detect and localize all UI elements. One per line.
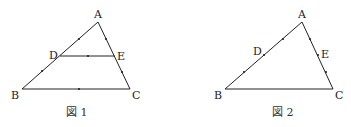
caption-fig2: 図 2 bbox=[272, 106, 294, 119]
label-b-fig1: B bbox=[11, 89, 19, 102]
label-e-fig2: E bbox=[321, 48, 329, 61]
label-c-fig2: C bbox=[335, 89, 343, 102]
label-a-fig2: A bbox=[297, 8, 307, 21]
label-d-fig1: D bbox=[49, 49, 58, 62]
label-a-fig1: A bbox=[93, 8, 103, 21]
diagram-canvas: A B C D E 図 1 A B C D E 図 2 bbox=[0, 0, 351, 127]
figure-1 bbox=[22, 22, 130, 89]
label-d-fig2: D bbox=[253, 45, 262, 58]
label-e-fig1: E bbox=[117, 50, 125, 63]
label-c-fig1: C bbox=[132, 89, 140, 102]
caption-fig1: 図 1 bbox=[66, 106, 88, 119]
label-b-fig2: B bbox=[214, 89, 222, 102]
figure-2 bbox=[225, 22, 333, 89]
figure-1-ticks bbox=[41, 38, 123, 90]
